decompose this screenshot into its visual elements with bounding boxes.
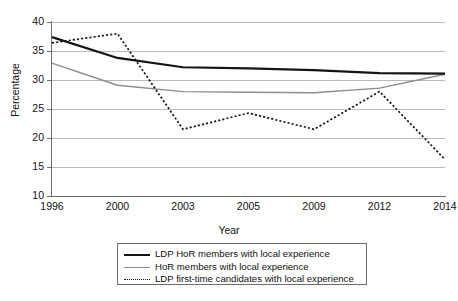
series-line-ldp-first-time [52, 34, 445, 160]
series-line-ldp-hor-members [52, 37, 445, 74]
legend-item-first-time: LDP first-time candidates with local exp… [124, 273, 360, 286]
legend-item-ldp-hor: LDP HoR members with local experience [124, 248, 360, 261]
legend-label-ldp-hor: LDP HoR members with local experience [155, 248, 330, 261]
legend-swatch-solid-thin-gray-icon [124, 261, 150, 272]
legend-label-hor: HoR members with local experience [155, 261, 309, 274]
legend-swatch-solid-thick-black-icon [124, 249, 150, 260]
chart-legend: LDP HoR members with local experience Ho… [117, 243, 367, 285]
legend-item-hor: HoR members with local experience [124, 261, 360, 274]
line-chart-figure: 10152025303540 1996200020032005200920122… [0, 0, 458, 301]
legend-swatch-dotted-black-icon [124, 274, 150, 285]
legend-label-first-time: LDP first-time candidates with local exp… [155, 273, 354, 286]
